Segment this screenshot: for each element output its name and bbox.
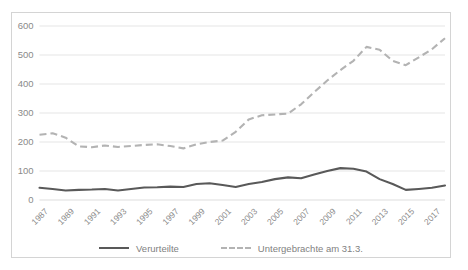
legend-line-dashed-icon xyxy=(221,247,251,249)
x-tick-label: 1993 xyxy=(108,206,129,227)
data-series-group xyxy=(40,38,446,190)
y-tick-label: 200 xyxy=(18,136,34,147)
x-tick-label: 1987 xyxy=(29,206,50,227)
y-axis-tick-labels: 0100200300400500600 xyxy=(18,20,34,205)
x-tick-label: 2013 xyxy=(370,206,391,227)
x-tick-label: 2005 xyxy=(265,206,286,227)
x-tick-label: 2001 xyxy=(213,206,234,227)
y-tick-label: 500 xyxy=(18,49,34,60)
x-tick-label: 1997 xyxy=(160,206,181,227)
legend-item-label: Untergebrachte am 31.3. xyxy=(258,243,363,254)
y-tick-label: 400 xyxy=(18,78,34,89)
y-tick-label: 100 xyxy=(18,165,34,176)
y-tick-label: 300 xyxy=(18,107,34,118)
chart-canvas: 0100200300400500600 19871989199119931995… xyxy=(0,0,468,270)
x-tick-label: 1991 xyxy=(82,206,103,227)
x-tick-label: 1999 xyxy=(186,206,207,227)
chart-legend: Verurteilte Untergebrachte am 31.3. xyxy=(11,238,451,258)
x-tick-label: 2015 xyxy=(396,206,417,227)
x-tick-label: 2009 xyxy=(317,206,338,227)
y-tick-label: 0 xyxy=(28,194,33,205)
legend-item-untergebrachte[interactable]: Untergebrachte am 31.3. xyxy=(221,243,363,254)
y-tick-label: 600 xyxy=(18,20,34,31)
x-tick-label: 2011 xyxy=(344,206,364,226)
legend-line-solid-icon xyxy=(99,247,129,249)
x-tick-label: 2007 xyxy=(291,206,312,227)
gridlines-group xyxy=(40,26,446,200)
x-tick-label: 2017 xyxy=(422,206,443,227)
legend-item-label: Verurteilte xyxy=(136,243,179,254)
legend-item-verurteilte[interactable]: Verurteilte xyxy=(99,243,179,254)
chart-container: 0100200300400500600 19871989199119931995… xyxy=(0,0,468,270)
x-tick-label: 2003 xyxy=(239,206,260,227)
x-tick-label: 1989 xyxy=(56,206,77,227)
x-axis-tick-labels: 1987198919911993199519971999200120032005… xyxy=(29,206,442,227)
x-tick-label: 1995 xyxy=(134,206,155,227)
